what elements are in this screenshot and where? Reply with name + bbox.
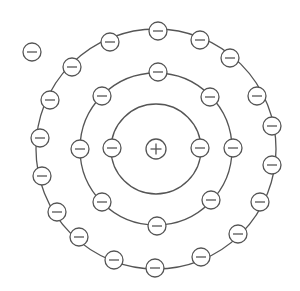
electron [191, 31, 209, 49]
nucleus [146, 139, 166, 159]
electron [192, 248, 210, 266]
electron [248, 87, 266, 105]
electron [41, 91, 59, 109]
electron [202, 191, 220, 209]
electron [70, 228, 88, 246]
electron [103, 139, 121, 157]
electron [33, 167, 51, 185]
electron [71, 140, 89, 158]
electron [251, 193, 269, 211]
free-electron [23, 43, 41, 61]
electron [201, 88, 219, 106]
electron [101, 33, 119, 51]
electron [149, 22, 167, 40]
electron [221, 49, 239, 67]
electron [191, 139, 209, 157]
electron [31, 129, 49, 147]
electron [93, 193, 111, 211]
electron [63, 58, 81, 76]
electron [263, 156, 281, 174]
electron [224, 139, 242, 157]
electron [105, 251, 123, 269]
atom-diagram [0, 0, 300, 291]
electron [146, 259, 164, 277]
electron [149, 63, 167, 81]
electron [263, 117, 281, 135]
electron [229, 225, 247, 243]
electron [148, 217, 166, 235]
electron [48, 203, 66, 221]
electron [93, 87, 111, 105]
